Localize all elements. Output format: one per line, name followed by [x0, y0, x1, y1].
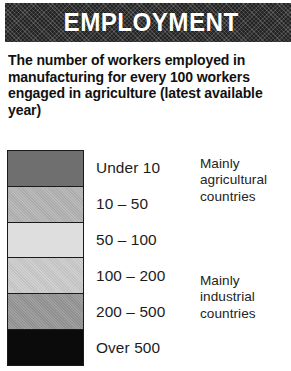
- legend-group-note-agricultural: Mainly agricultural countries: [200, 156, 290, 205]
- map-key-title-banner: EMPLOYMENT: [5, 3, 291, 42]
- page-title: EMPLOYMENT: [58, 10, 239, 35]
- legend-swatch: [8, 257, 83, 293]
- legend-range-label: 10 – 50: [96, 186, 200, 222]
- legend-group-note-industrial: Mainly industrial countries: [200, 273, 290, 322]
- legend-swatch: [8, 222, 83, 258]
- legend-swatch: [8, 151, 83, 186]
- legend-range-label: 100 – 200: [96, 258, 200, 294]
- legend-range-label: 200 – 500: [96, 294, 200, 330]
- legend-swatch-column: [7, 150, 84, 366]
- legend-range-label: Over 500: [96, 330, 200, 366]
- key-description: The number of workers employed in manufa…: [8, 52, 280, 118]
- legend-range-label: Under 10: [96, 150, 200, 186]
- legend-swatch: [8, 293, 83, 329]
- legend-range-label-column: Under 10 10 – 50 50 – 100 100 – 200 200 …: [96, 150, 200, 366]
- map-legend: Under 10 10 – 50 50 – 100 100 – 200 200 …: [0, 148, 291, 371]
- legend-range-label: 50 – 100: [96, 222, 200, 258]
- legend-swatch: [8, 329, 83, 365]
- legend-swatch: [8, 186, 83, 222]
